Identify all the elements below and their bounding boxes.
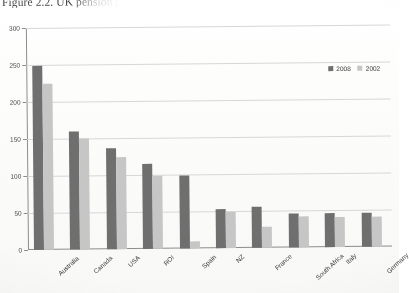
bar bbox=[190, 241, 200, 248]
category-label: South Africa bbox=[314, 252, 345, 281]
bar bbox=[252, 207, 262, 248]
bar-group bbox=[252, 207, 272, 248]
bar bbox=[216, 209, 226, 248]
y-axis-tick-label: 300 bbox=[9, 25, 20, 32]
y-axis-tick bbox=[24, 250, 28, 251]
gridlines bbox=[26, 25, 390, 28]
legend-item-2008: 2008 bbox=[328, 65, 351, 72]
y-axis-tick bbox=[23, 139, 27, 140]
bar-group bbox=[142, 164, 163, 249]
y-axis-tick bbox=[22, 28, 26, 29]
y-axis-tick-label: 100 bbox=[10, 173, 21, 180]
y-axis-tick-label: 150 bbox=[10, 136, 21, 143]
y-axis-tick bbox=[23, 102, 27, 103]
bar bbox=[325, 213, 335, 247]
y-axis-tick-label: 0 bbox=[18, 247, 22, 254]
bar bbox=[288, 213, 298, 247]
category-label: NZ bbox=[234, 253, 245, 264]
gridline bbox=[26, 25, 390, 29]
plot-area: 050100150200250300 AustraliaCanadaUSAROI… bbox=[26, 25, 392, 250]
category-label: Spain bbox=[200, 253, 217, 269]
gridline bbox=[27, 99, 391, 103]
category-label: Canada bbox=[92, 254, 114, 275]
bar bbox=[79, 138, 90, 249]
bar-group bbox=[325, 213, 345, 247]
legend-label: 2008 bbox=[336, 65, 351, 72]
y-axis-tick bbox=[24, 213, 28, 214]
bar-group bbox=[69, 131, 90, 250]
bar bbox=[361, 213, 371, 247]
bar-group bbox=[106, 148, 127, 250]
bar bbox=[226, 213, 236, 249]
bar bbox=[42, 83, 54, 250]
y-axis-tick-label: 50 bbox=[14, 210, 21, 217]
legend-item-2002: 2002 bbox=[358, 65, 381, 72]
category-label: Italy bbox=[344, 252, 358, 265]
category-label: Germany bbox=[385, 251, 409, 274]
y-axis-tick bbox=[22, 65, 26, 66]
bar-group bbox=[179, 176, 200, 249]
category-label: ROI bbox=[162, 254, 175, 267]
bar-group bbox=[32, 66, 54, 250]
bar bbox=[262, 227, 272, 248]
bar-group bbox=[361, 213, 381, 247]
bar bbox=[152, 176, 163, 249]
bar bbox=[298, 216, 308, 247]
y-axis-tick bbox=[23, 176, 27, 177]
chart-legend: 2008 2002 bbox=[328, 65, 380, 72]
legend-label: 2002 bbox=[366, 65, 381, 72]
y-axis-tick-label: 250 bbox=[9, 62, 20, 69]
bar bbox=[335, 217, 345, 247]
legend-swatch-icon bbox=[328, 66, 333, 71]
category-label: USA bbox=[126, 254, 141, 268]
category-label: Australia bbox=[57, 255, 80, 277]
bar bbox=[116, 157, 127, 250]
y-axis-tick-label: 200 bbox=[10, 99, 21, 106]
category-label: France bbox=[274, 253, 294, 272]
bar-group bbox=[216, 209, 236, 248]
bar bbox=[179, 176, 190, 249]
bar bbox=[371, 217, 381, 247]
bar-group bbox=[288, 213, 308, 247]
legend-swatch-icon bbox=[358, 66, 363, 71]
